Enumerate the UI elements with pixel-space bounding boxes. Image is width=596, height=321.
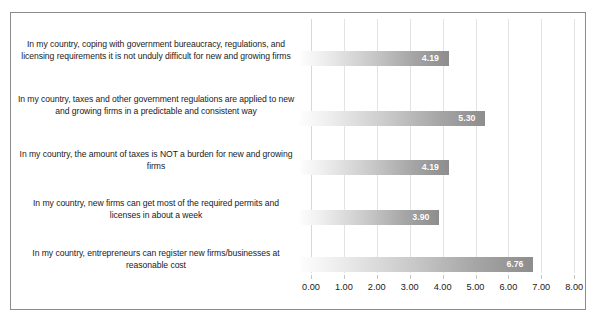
gridline-8.00 bbox=[574, 19, 575, 273]
x-tick-mark bbox=[377, 275, 378, 279]
bar-row[interactable]: 5.30 bbox=[300, 111, 485, 126]
x-tick-mark bbox=[541, 275, 542, 279]
bar-row[interactable]: 4.19 bbox=[300, 160, 449, 175]
x-tick-label: 8.00 bbox=[554, 282, 594, 292]
gridline-5.00 bbox=[476, 19, 477, 273]
gridline-6.00 bbox=[508, 19, 509, 273]
bar-row[interactable]: 3.90 bbox=[300, 210, 439, 225]
x-tick-mark bbox=[311, 275, 312, 279]
x-axis: 0.001.002.003.004.005.006.007.008.00 bbox=[300, 275, 588, 305]
bar-value-label: 5.30 bbox=[458, 112, 475, 125]
category-axis-labels: In my country, coping with government bu… bbox=[11, 13, 299, 273]
gridline-7.00 bbox=[541, 19, 542, 273]
chart-frame: In my country, coping with government bu… bbox=[10, 12, 586, 310]
category-label-1: In my country, taxes and other governmen… bbox=[17, 94, 295, 117]
x-tick-mark bbox=[443, 275, 444, 279]
bar-row[interactable]: 4.19 bbox=[300, 51, 449, 66]
x-tick-mark bbox=[508, 275, 509, 279]
category-label-3: In my country, new firms can get most of… bbox=[17, 198, 295, 221]
plot-area: 4.195.304.193.906.76 bbox=[300, 19, 574, 273]
category-label-4: In my country, entrepreneurs can registe… bbox=[17, 248, 295, 271]
bar-value-label: 6.76 bbox=[506, 258, 523, 271]
bar-row[interactable]: 6.76 bbox=[300, 257, 533, 272]
bar-value-label: 4.19 bbox=[422, 52, 439, 65]
bar[interactable] bbox=[300, 257, 533, 272]
category-label-0: In my country, coping with government bu… bbox=[17, 39, 295, 62]
bar-value-label: 4.19 bbox=[422, 161, 439, 174]
x-tick-mark bbox=[410, 275, 411, 279]
category-label-2: In my country, the amount of taxes is NO… bbox=[17, 149, 295, 172]
x-tick-mark bbox=[344, 275, 345, 279]
x-tick-mark bbox=[476, 275, 477, 279]
x-tick-mark bbox=[574, 275, 575, 279]
bar-value-label: 3.90 bbox=[412, 211, 429, 224]
